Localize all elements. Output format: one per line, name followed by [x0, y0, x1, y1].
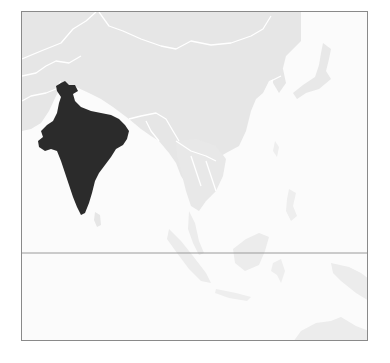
- korea-peninsula: [273, 63, 286, 93]
- new-guinea-island: [331, 263, 368, 301]
- malay-peninsula: [188, 211, 204, 255]
- australia-land: [293, 317, 368, 341]
- sumatra-island: [167, 229, 211, 283]
- java-island: [215, 289, 251, 301]
- japan-islands: [293, 43, 331, 99]
- sri-lanka-island: [94, 212, 101, 227]
- philippines-islands: [286, 189, 297, 221]
- map-frame: [21, 11, 368, 341]
- borneo-island: [233, 233, 269, 271]
- indochina-land: [176, 139, 226, 211]
- map-svg: [21, 11, 368, 341]
- sulawesi-island: [271, 259, 285, 283]
- taiwan-island: [273, 141, 279, 157]
